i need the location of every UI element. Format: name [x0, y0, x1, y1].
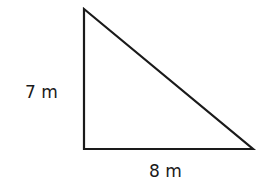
- right-triangle: [84, 9, 253, 149]
- height-label: 7 m: [25, 82, 58, 102]
- triangle-diagram: 7 m 8 m: [0, 0, 273, 184]
- base-label: 8 m: [149, 161, 182, 181]
